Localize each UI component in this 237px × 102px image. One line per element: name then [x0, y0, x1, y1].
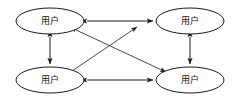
- node-user-bottom-right[interactable]: 用户: [156, 67, 224, 93]
- node-label: 用户: [181, 15, 200, 26]
- node-label: 用户: [181, 74, 200, 85]
- edge-diagonal-bottomleft-topright: [72, 27, 137, 71]
- node-user-top-left[interactable]: 用户: [16, 8, 84, 34]
- node-label: 用户: [41, 15, 60, 26]
- diagram-canvas: 用户 用户 用户 用户: [0, 0, 237, 102]
- user-network-diagram: 用户 用户 用户 用户: [0, 0, 237, 102]
- edge-diagonal-topleft-bottomright: [76, 30, 166, 72]
- node-label: 用户: [41, 74, 60, 85]
- node-user-bottom-left[interactable]: 用户: [16, 67, 84, 93]
- node-user-top-right[interactable]: 用户: [156, 8, 224, 34]
